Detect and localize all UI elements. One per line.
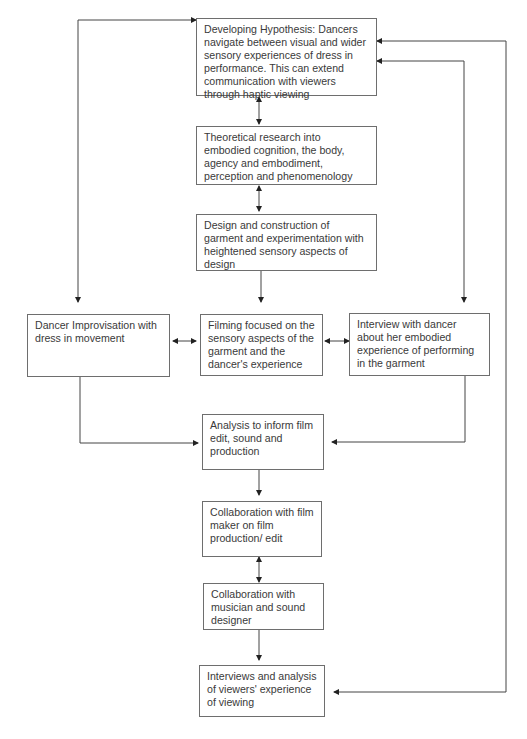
node-analysis: Analysis to inform film edit, sound and …	[202, 414, 324, 470]
node-hypothesis: Developing Hypothesis: Dancers navigate …	[196, 18, 377, 96]
node-interview: Interview with dancer about her embodied…	[349, 313, 490, 376]
node-music-collab: Collaboration with musician and sound de…	[203, 583, 324, 630]
node-design: Design and construction of garment and e…	[196, 214, 377, 271]
node-improvisation: Dancer Improvisation with dress in movem…	[27, 314, 170, 377]
node-filming: Filming focused on the sensory aspects o…	[200, 314, 323, 376]
node-viewer-interviews: Interviews and analysis of viewers' expe…	[199, 665, 325, 717]
node-film-collab: Collaboration with film maker on film pr…	[202, 501, 322, 557]
node-theory: Theoretical research into embodied cogni…	[196, 126, 377, 185]
